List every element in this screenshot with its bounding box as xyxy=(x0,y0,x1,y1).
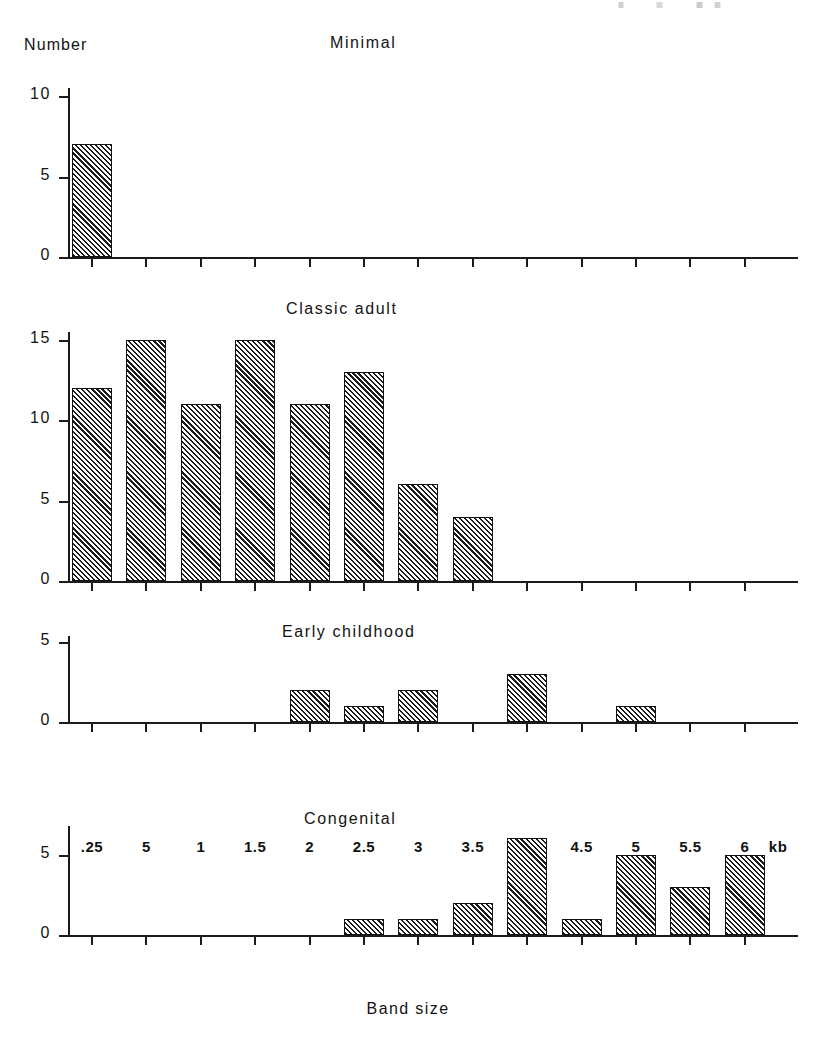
x-axis-tick xyxy=(363,724,365,732)
y-axis-tick: 5 xyxy=(59,642,69,644)
y-axis-tick-label: 5 xyxy=(41,631,52,649)
x-axis-tick xyxy=(91,937,93,945)
x-axis-tick-label: 3.5 xyxy=(462,838,484,855)
x-axis-title: Band size xyxy=(0,1000,816,1018)
histogram-bar xyxy=(290,690,330,722)
x-axis-tick-label: 6 xyxy=(740,838,749,855)
y-axis-tick: 5 xyxy=(59,501,69,503)
y-axis-line xyxy=(68,88,70,257)
x-axis-tick xyxy=(472,724,474,732)
x-axis-tick xyxy=(635,583,637,591)
x-axis-tick-label: 3 xyxy=(414,838,423,855)
y-axis-line xyxy=(68,826,70,935)
x-axis-tick xyxy=(526,937,528,945)
x-axis-tick xyxy=(200,937,202,945)
y-axis-tick: 10 xyxy=(59,420,69,422)
y-axis-tick-label: 10 xyxy=(30,409,51,427)
x-axis-tick xyxy=(472,259,474,267)
y-axis-tick-label: 10 xyxy=(30,85,51,103)
plot-area: 051015 xyxy=(68,332,798,581)
histogram-bar xyxy=(235,340,275,582)
y-axis-line xyxy=(68,636,70,722)
y-axis-tick-label: 0 xyxy=(41,711,52,729)
histogram-bar xyxy=(616,706,656,722)
histogram-bar xyxy=(507,838,547,935)
x-axis-tick xyxy=(635,937,637,945)
x-axis-tick xyxy=(417,583,419,591)
x-axis-tick xyxy=(145,724,147,732)
y-axis-tick-label: 0 xyxy=(41,246,52,264)
y-axis-tick: 5 xyxy=(59,177,69,179)
panel-title: Minimal xyxy=(330,34,396,52)
y-axis-tick: 10 xyxy=(59,96,69,98)
x-axis-tick-label: 1 xyxy=(196,838,205,855)
x-axis-tick-label: 2.5 xyxy=(353,838,375,855)
x-axis-tick xyxy=(91,724,93,732)
y-axis-tick-label: 5 xyxy=(41,490,52,508)
x-axis-tick xyxy=(363,937,365,945)
x-axis-tick xyxy=(689,724,691,732)
x-axis-tick xyxy=(744,724,746,732)
x-axis-tick-label: 1.5 xyxy=(244,838,266,855)
x-axis-tick xyxy=(689,937,691,945)
x-axis-tick xyxy=(145,583,147,591)
x-axis-tick xyxy=(145,259,147,267)
y-axis-title: Number xyxy=(24,36,88,54)
x-axis-tick-label: 5 xyxy=(632,838,641,855)
y-axis-tick-label: 5 xyxy=(41,166,52,184)
plot-area: 05.25511.522.533.544.555.56kb xyxy=(68,826,798,935)
x-axis-tick xyxy=(254,937,256,945)
y-axis-tick-label: 0 xyxy=(41,924,52,942)
x-axis-tick-label: .25 xyxy=(81,838,103,855)
figure-root: Number Band size Minimal0510Classic adul… xyxy=(0,0,816,1051)
x-axis-tick xyxy=(309,259,311,267)
histogram-bar xyxy=(507,674,547,722)
x-axis-tick xyxy=(744,259,746,267)
x-axis-tick xyxy=(254,724,256,732)
histogram-bar xyxy=(398,484,438,581)
histogram-bar xyxy=(344,919,384,935)
plot-area: 0510 xyxy=(68,88,798,257)
x-axis-tick-label: 4.5 xyxy=(570,838,592,855)
histogram-bar xyxy=(181,404,221,581)
x-axis-tick xyxy=(744,937,746,945)
histogram-bar xyxy=(290,404,330,581)
histogram-bar xyxy=(725,855,765,936)
x-axis-tick-label: 5 xyxy=(142,838,151,855)
x-axis-tick xyxy=(200,583,202,591)
histogram-bar xyxy=(616,855,656,936)
x-axis-tick xyxy=(417,937,419,945)
histogram-bar xyxy=(398,690,438,722)
x-axis-tick xyxy=(145,937,147,945)
x-axis-tick xyxy=(689,583,691,591)
x-axis-tick-label: 2 xyxy=(305,838,314,855)
x-axis-tick xyxy=(581,937,583,945)
x-axis-tick xyxy=(309,937,311,945)
x-axis-tick xyxy=(200,724,202,732)
histogram-bar xyxy=(670,887,710,935)
x-axis-tick xyxy=(363,583,365,591)
histogram-bar xyxy=(398,919,438,935)
x-axis-tick xyxy=(526,724,528,732)
x-axis-tick-label: 5.5 xyxy=(679,838,701,855)
y-axis-tick: 15 xyxy=(59,340,69,342)
x-axis-tick xyxy=(526,583,528,591)
x-axis-tick xyxy=(635,724,637,732)
x-axis-unit-label: kb xyxy=(769,838,788,855)
x-axis-tick xyxy=(689,259,691,267)
x-axis-tick xyxy=(91,259,93,267)
histogram-bar xyxy=(72,388,112,581)
x-axis-tick xyxy=(581,259,583,267)
x-axis-tick xyxy=(417,724,419,732)
x-axis-tick xyxy=(581,724,583,732)
x-axis-tick xyxy=(200,259,202,267)
histogram-bar xyxy=(453,517,493,581)
x-axis-tick xyxy=(309,724,311,732)
x-axis-tick xyxy=(526,259,528,267)
y-axis-tick-label: 15 xyxy=(30,329,51,347)
histogram-bar xyxy=(72,144,112,257)
histogram-bar xyxy=(562,919,602,935)
histogram-bar xyxy=(344,706,384,722)
x-axis-tick xyxy=(744,583,746,591)
x-axis-tick xyxy=(254,583,256,591)
